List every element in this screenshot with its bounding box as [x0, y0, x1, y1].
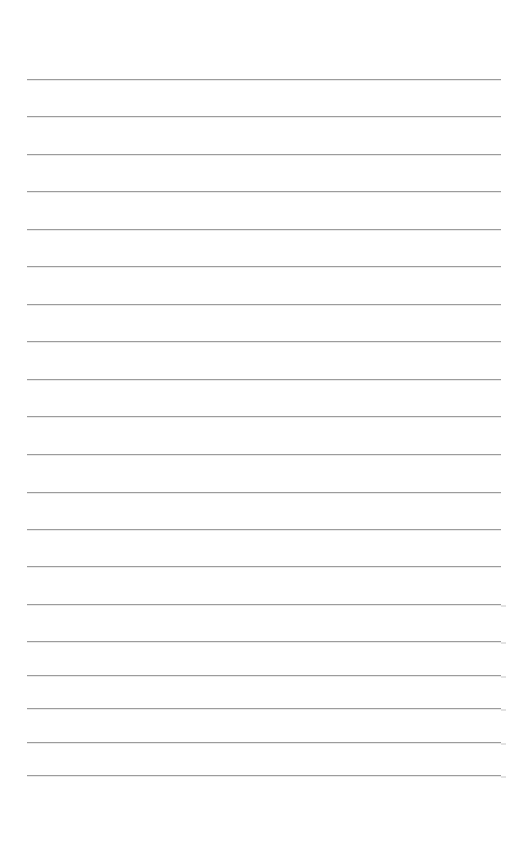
ruled-line: [27, 604, 501, 605]
ruled-line: [27, 79, 501, 80]
lined-paper-page: [0, 0, 507, 847]
ruled-line: [27, 675, 501, 676]
edge-mark: [501, 709, 506, 711]
edge-mark: [501, 676, 506, 678]
ruled-line: [27, 154, 501, 155]
ruled-line: [27, 266, 501, 267]
ruled-line: [27, 641, 501, 642]
ruled-line: [27, 492, 501, 493]
ruled-line: [27, 775, 501, 776]
ruled-line: [27, 416, 501, 417]
ruled-line: [27, 566, 501, 567]
ruled-line: [27, 116, 501, 117]
edge-mark: [501, 743, 506, 745]
ruled-line: [27, 708, 501, 709]
ruled-line: [27, 742, 501, 743]
ruled-line: [27, 229, 501, 230]
edge-mark: [501, 642, 506, 644]
ruled-line: [27, 304, 501, 305]
ruled-line: [27, 341, 501, 342]
ruled-line: [27, 529, 501, 530]
edge-mark: [501, 605, 506, 607]
ruled-line: [27, 379, 501, 380]
ruled-line: [27, 191, 501, 192]
edge-mark: [501, 776, 506, 778]
ruled-line: [27, 454, 501, 455]
